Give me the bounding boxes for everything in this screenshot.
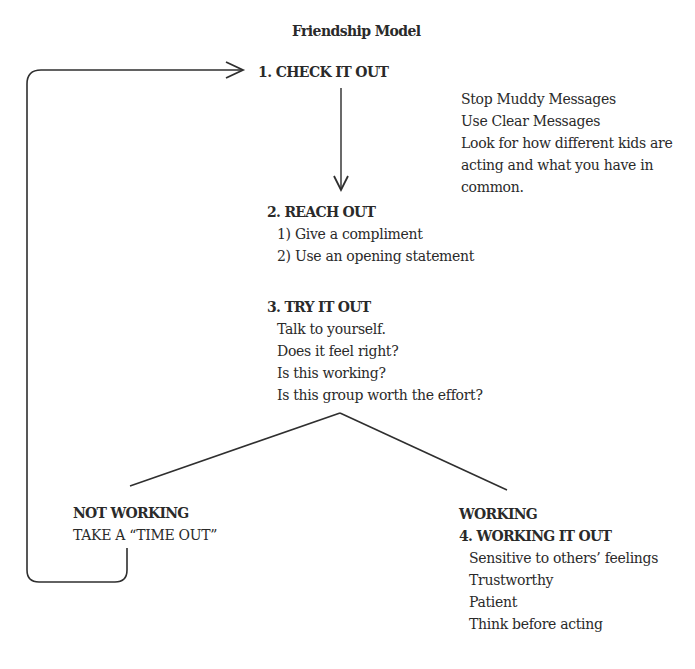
reach-out-item: 2) Use an opening statement: [267, 245, 474, 267]
try-it-out-item: Is this working?: [267, 362, 483, 384]
step-try-it-out-heading: 3. TRY IT OUT: [267, 296, 483, 318]
step-reach-out: 2. REACH OUT 1) Give a compliment 2) Use…: [267, 201, 474, 267]
note-line: acting and what you have in: [461, 154, 672, 176]
note-line: common.: [461, 176, 672, 198]
working-it-out-item: Sensitive to others’ feelings: [459, 547, 658, 569]
working-it-out-item: Patient: [459, 591, 658, 613]
step-try-it-out: 3. TRY IT OUT Talk to yourself. Does it …: [267, 296, 483, 406]
diagram-title: Friendship Model: [292, 20, 421, 42]
working-it-out-heading: 4. WORKING IT OUT: [459, 525, 658, 547]
note-line: Use Clear Messages: [461, 110, 672, 132]
working-it-out-item: Think before acting: [459, 613, 658, 635]
working-heading: WORKING: [459, 503, 658, 525]
reach-out-item: 1) Give a compliment: [267, 223, 474, 245]
not-working-heading: NOT WORKING: [73, 502, 217, 524]
check-it-out-notes: Stop Muddy Messages Use Clear Messages L…: [461, 88, 672, 198]
step-reach-out-heading: 2. REACH OUT: [267, 201, 474, 223]
note-line: Stop Muddy Messages: [461, 88, 672, 110]
try-it-out-item: Talk to yourself.: [267, 318, 483, 340]
branch-line-not-working: [130, 413, 340, 486]
branch-not-working: NOT WORKING TAKE A “TIME OUT”: [73, 502, 217, 546]
step-check-it-out-heading: 1. CHECK IT OUT: [258, 61, 388, 83]
branch-line-working: [340, 413, 507, 490]
try-it-out-item: Does it feel right?: [267, 340, 483, 362]
not-working-action: TAKE A “TIME OUT”: [73, 524, 217, 546]
note-line: Look for how different kids are: [461, 132, 672, 154]
try-it-out-item: Is this group worth the effort?: [267, 384, 483, 406]
branch-working: WORKING 4. WORKING IT OUT Sensitive to o…: [459, 503, 658, 635]
working-it-out-item: Trustworthy: [459, 569, 658, 591]
